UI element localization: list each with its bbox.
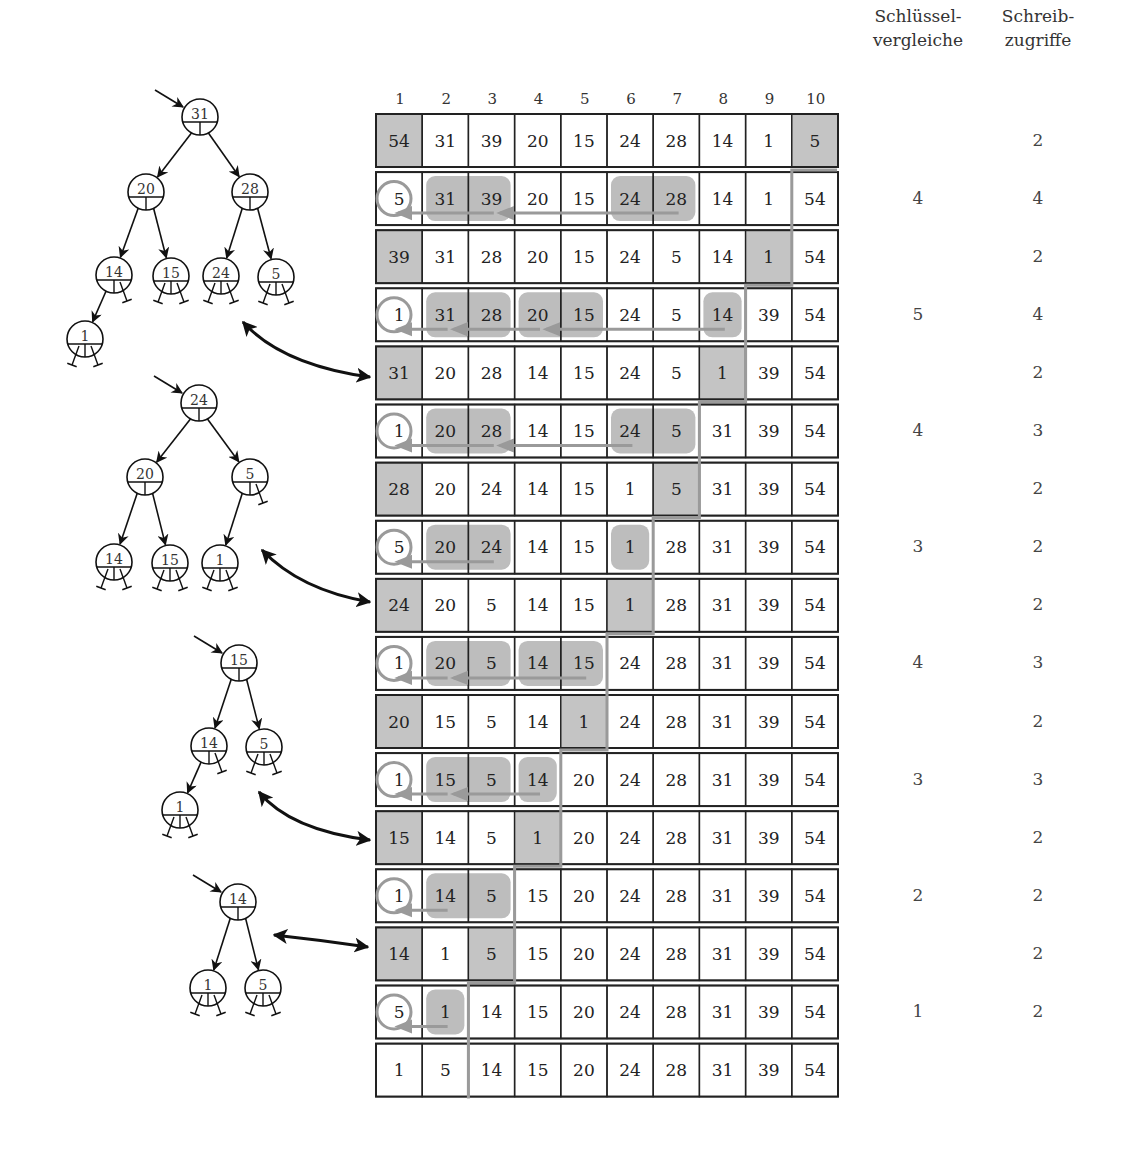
cell-value: 54 bbox=[804, 770, 826, 790]
cell-value: 15 bbox=[434, 770, 456, 790]
cell-value: 1 bbox=[440, 944, 451, 964]
tree-node: 1 bbox=[67, 321, 103, 367]
cell-value: 5 bbox=[671, 421, 682, 441]
root-pointer-arrow bbox=[155, 90, 183, 107]
cell-value: 31 bbox=[434, 247, 456, 267]
tree-node: 1 bbox=[190, 970, 226, 1016]
cell-value: 15 bbox=[573, 537, 595, 557]
tree-node-label: 5 bbox=[260, 736, 269, 752]
cell-value: 39 bbox=[758, 363, 780, 383]
cell-value: 1 bbox=[625, 537, 636, 557]
comparisons-header: Schlüssel- vergleiche bbox=[858, 4, 978, 52]
cell-value: 24 bbox=[619, 944, 641, 964]
tree-node-label: 28 bbox=[241, 181, 259, 197]
cell-value: 31 bbox=[712, 712, 734, 732]
cell-value: 39 bbox=[758, 537, 780, 557]
cell-value: 14 bbox=[712, 131, 734, 151]
cell-value: 39 bbox=[481, 189, 503, 209]
tree-node: 24 bbox=[154, 376, 217, 421]
link-arrow-tree1 bbox=[243, 322, 370, 377]
tree-node: 28 bbox=[232, 174, 268, 210]
cell-value: 54 bbox=[804, 595, 826, 615]
write-count: 2 bbox=[1008, 362, 1068, 382]
tree-edge-arrow bbox=[120, 491, 138, 544]
cell-value: 5 bbox=[671, 363, 682, 383]
tree-node-label: 20 bbox=[136, 466, 154, 482]
cell-value: 28 bbox=[665, 595, 687, 615]
tree-node-label: 14 bbox=[229, 891, 247, 907]
column-index: 10 bbox=[793, 90, 839, 108]
tree-node-label: 14 bbox=[105, 551, 123, 567]
cell-value: 39 bbox=[758, 944, 780, 964]
cell-value: 39 bbox=[758, 712, 780, 732]
cell-value: 39 bbox=[388, 247, 410, 267]
column-index: 2 bbox=[423, 90, 469, 108]
cell-value: 5 bbox=[486, 653, 497, 673]
cell-value: 5 bbox=[486, 944, 497, 964]
cell-value: 15 bbox=[527, 1060, 549, 1080]
comparison-count: 5 bbox=[888, 304, 948, 324]
cell-value: 39 bbox=[758, 653, 780, 673]
cell-value: 14 bbox=[527, 363, 549, 383]
cell-value: 1 bbox=[394, 305, 405, 325]
column-index: 3 bbox=[469, 90, 515, 108]
cell-value: 5 bbox=[671, 479, 682, 499]
writes-header-line1: Schreib- bbox=[978, 4, 1098, 28]
cell-value: 14 bbox=[481, 1002, 503, 1022]
cell-value: 15 bbox=[527, 1002, 549, 1022]
write-count: 2 bbox=[1008, 827, 1068, 847]
tree-node-label: 14 bbox=[200, 735, 218, 751]
cell-value: 24 bbox=[619, 770, 641, 790]
tree-edge-arrow bbox=[214, 916, 231, 970]
tree-node-label: 15 bbox=[161, 552, 179, 568]
heap-tree-4: 1415 bbox=[190, 875, 281, 1016]
link-arrow-tree3 bbox=[259, 792, 370, 840]
heap-trees: 3120281415245124205141511514511415 bbox=[67, 90, 370, 1016]
write-count: 2 bbox=[1008, 536, 1068, 556]
cell-value: 54 bbox=[804, 944, 826, 964]
cell-value: 54 bbox=[804, 479, 826, 499]
cell-value: 15 bbox=[573, 479, 595, 499]
write-count: 2 bbox=[1008, 1001, 1068, 1021]
cell-value: 5 bbox=[394, 537, 405, 557]
cell-value: 14 bbox=[527, 595, 549, 615]
cell-value: 14 bbox=[527, 653, 549, 673]
array-row-final: 151415202428313954 bbox=[376, 1044, 838, 1097]
cell-value: 20 bbox=[573, 886, 595, 906]
cell-value: 20 bbox=[434, 479, 456, 499]
cell-value: 14 bbox=[527, 479, 549, 499]
cell-value: 20 bbox=[434, 421, 456, 441]
cell-value: 15 bbox=[573, 421, 595, 441]
tree-edge-arrow bbox=[158, 131, 193, 177]
cell-value: 24 bbox=[388, 595, 410, 615]
comparison-count: 3 bbox=[888, 536, 948, 556]
tree-edge-arrow bbox=[257, 206, 271, 259]
cell-value: 31 bbox=[388, 363, 410, 383]
cell-value: 20 bbox=[527, 305, 549, 325]
comparison-count: 3 bbox=[888, 769, 948, 789]
tree-node: 20 bbox=[127, 459, 163, 495]
cell-value: 28 bbox=[665, 1060, 687, 1080]
tree-edge-arrow bbox=[226, 491, 243, 545]
cell-value: 54 bbox=[804, 828, 826, 848]
cell-value: 31 bbox=[712, 595, 734, 615]
cell-value: 28 bbox=[665, 1002, 687, 1022]
tree-edge-arrow bbox=[206, 417, 239, 462]
cell-value: 20 bbox=[527, 247, 549, 267]
write-count: 2 bbox=[1008, 130, 1068, 150]
cell-value: 28 bbox=[388, 479, 410, 499]
cell-value: 20 bbox=[388, 712, 410, 732]
tree-node: 24 bbox=[203, 258, 239, 304]
array-row-swap: 151451202428313954 bbox=[376, 811, 838, 864]
cell-value: 1 bbox=[578, 712, 589, 732]
tree-node-label: 1 bbox=[204, 977, 213, 993]
cell-value: 5 bbox=[809, 131, 820, 151]
cell-value: 54 bbox=[804, 363, 826, 383]
write-count: 3 bbox=[1008, 420, 1068, 440]
cell-value: 5 bbox=[671, 247, 682, 267]
cell-value: 39 bbox=[758, 595, 780, 615]
tree-node-label: 1 bbox=[176, 799, 185, 815]
cell-value: 24 bbox=[619, 189, 641, 209]
cell-value: 28 bbox=[481, 247, 503, 267]
tree-edge-arrow bbox=[245, 916, 258, 970]
